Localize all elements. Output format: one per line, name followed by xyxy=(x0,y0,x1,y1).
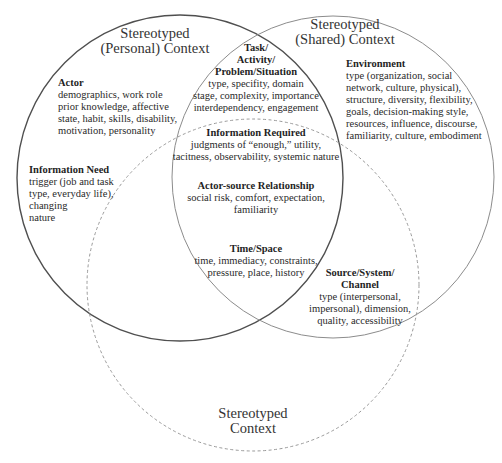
information-required-line: judgments of “enough,” utility, xyxy=(170,139,342,151)
environment-line: resources, influence, discourse, xyxy=(346,118,482,130)
information-required-line: tacitness, observability, systemic natur… xyxy=(170,151,342,163)
actor-line: state, habit, skills, disability, xyxy=(58,113,177,125)
title-line: Context xyxy=(213,421,293,436)
actor-line: prior knowledge, affective xyxy=(58,101,177,113)
source-system-heading: Source/System/ xyxy=(305,267,415,279)
task-heading: Problem/Situation xyxy=(186,66,326,78)
task-region: Task/ Activity/ Problem/Situation type, … xyxy=(186,42,326,114)
information-need-line: changing xyxy=(29,200,114,212)
title-line: Stereotyped xyxy=(100,26,210,41)
source-system-region: Source/System/ Channel type (interperson… xyxy=(305,267,415,327)
information-need-line: nature xyxy=(29,212,114,224)
task-heading: Activity/ xyxy=(186,54,326,66)
environment-line: familiarity, culture, embodiment xyxy=(346,130,482,142)
time-space-heading: Time/Space xyxy=(190,243,322,255)
actor-region: Actor demographics, work role prior know… xyxy=(58,77,177,137)
source-system-line: type (interpersonal, xyxy=(305,291,415,303)
source-system-line: quality, accessibility xyxy=(305,315,415,327)
information-need-region: Information Need trigger (job and task t… xyxy=(29,164,114,224)
source-system-heading: Channel xyxy=(305,279,415,291)
title-line: Stereotyped xyxy=(295,17,395,32)
environment-heading: Environment xyxy=(346,58,482,70)
information-required-heading: Information Required xyxy=(170,127,342,139)
environment-line: type (organization, social xyxy=(346,70,482,82)
task-heading: Task/ xyxy=(186,42,326,54)
environment-line: network, culture, physical), xyxy=(346,82,482,94)
actor-source-line: social risk, comfort, expectation, xyxy=(180,192,332,204)
task-line: interdependency, engagement xyxy=(186,102,326,114)
environment-line: structure, diversity, flexibility, xyxy=(346,94,482,106)
title-line: Stereotyped xyxy=(213,406,293,421)
actor-source-heading: Actor-source Relationship xyxy=(180,180,332,192)
environment-line: goals, decision-making style, xyxy=(346,106,482,118)
time-space-line: time, immediacy, constraints, xyxy=(190,255,322,267)
time-space-region: Time/Space time, immediacy, constraints,… xyxy=(190,243,322,279)
information-need-line: type, everyday life), xyxy=(29,188,114,200)
information-need-line: trigger (job and task xyxy=(29,176,114,188)
task-line: type, specifity, domain xyxy=(186,78,326,90)
actor-source-region: Actor-source Relationship social risk, c… xyxy=(180,180,332,216)
actor-line: motivation, personality xyxy=(58,125,177,137)
task-line: stage, complexity, importance xyxy=(186,90,326,102)
actor-line: demographics, work role xyxy=(58,89,177,101)
environment-region: Environment type (organization, social n… xyxy=(346,58,482,142)
stereotyped-context-title: Stereotyped Context xyxy=(213,406,293,436)
information-need-heading: Information Need xyxy=(29,164,114,176)
source-system-line: impersonal), dimension, xyxy=(305,303,415,315)
time-space-line: pressure, place, history xyxy=(190,267,322,279)
actor-source-line: familiarity xyxy=(180,204,332,216)
information-required-region: Information Required judgments of “enoug… xyxy=(170,127,342,163)
actor-heading: Actor xyxy=(58,77,177,89)
